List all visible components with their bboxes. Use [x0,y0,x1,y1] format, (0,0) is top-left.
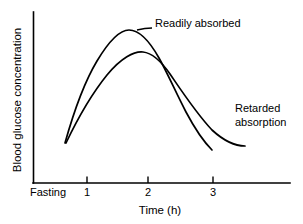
curve-readily-absorbed [65,30,212,150]
curve-retarded-absorption [66,52,245,146]
annotation-retarded-absorption-line2: absorption [235,116,286,128]
chart-figure: 1 2 3 Fasting Time (h) Blood glucose con… [0,0,303,224]
x-axis-origin-label: Fasting [30,186,66,198]
x-tick-label-3: 3 [210,186,216,198]
y-axis-title: Blood glucose concentration [11,28,23,173]
readily-absorbed-leader-line [137,28,152,30]
x-tick-label-2: 2 [145,186,151,198]
chart-canvas: 1 2 3 Fasting Time (h) Blood glucose con… [0,0,303,224]
x-axis-title: Time (h) [139,204,182,216]
annotation-retarded-absorption-line1: Retarded [235,102,280,114]
x-tick-label-1: 1 [84,186,90,198]
annotation-readily-absorbed: Readily absorbed [155,17,241,29]
